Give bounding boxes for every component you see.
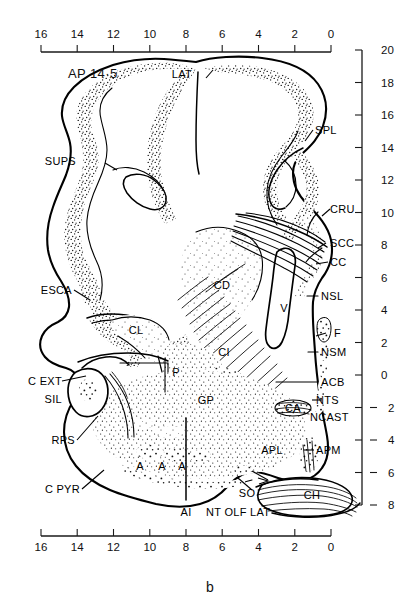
label-p: P	[172, 366, 180, 378]
top-tick-label-2: 12	[107, 28, 120, 40]
right-tick-label-10: 0	[381, 369, 387, 381]
label-sil: SIL	[45, 393, 62, 405]
right-axis-ticks	[355, 50, 362, 505]
label-ncast: NCAST	[310, 411, 349, 423]
label-cc: CC	[330, 256, 347, 268]
right-tick-label-7: 6	[381, 272, 387, 284]
right-tick-label-13: 6	[388, 467, 394, 479]
bottom-tick-label-4: 8	[183, 541, 189, 553]
right-tick-label-4: 12	[381, 174, 394, 186]
label-so: SO	[239, 487, 256, 499]
bottom-tick-label-3: 10	[143, 541, 156, 553]
label-f: F	[334, 327, 341, 339]
label-scc: SCC	[330, 237, 354, 249]
right-tick-label-5: 10	[381, 207, 394, 219]
bottom-tick-label-7: 2	[292, 541, 298, 553]
label-spl: SPL	[315, 124, 337, 136]
top-tick-label-3: 10	[143, 28, 156, 40]
label-cd: CD	[214, 279, 231, 291]
right-tick-label-8: 4	[381, 304, 388, 316]
supraoptic-patch	[234, 465, 252, 475]
top-scale-axis: 16 14 12 10 8 6 4 2 0	[35, 28, 335, 52]
bottom-tick-label-8: 0	[328, 541, 334, 553]
label-v: V	[280, 302, 288, 314]
sil-island	[68, 369, 108, 417]
top-tick-label-4: 8	[183, 28, 189, 40]
top-axis-ticks	[41, 45, 331, 52]
label-a-3: A	[178, 460, 186, 472]
atlas-svg: 16 14 12 10 8 6 4 2 0 16 14 12 10 8 6 4 …	[0, 0, 420, 613]
top-tick-label-6: 4	[255, 28, 262, 40]
atlas-figure: 16 14 12 10 8 6 4 2 0 16 14 12 10 8 6 4 …	[0, 0, 420, 613]
right-tick-label-14: 8	[388, 499, 394, 511]
bottom-tick-label-1: 14	[71, 541, 84, 553]
figure-panel-label: b	[206, 579, 214, 595]
right-tick-label-12: 4	[388, 434, 395, 446]
label-ca: CA	[285, 402, 301, 414]
label-cru: CRU	[330, 203, 355, 215]
label-a-1: A	[136, 460, 144, 472]
right-axis-negative-dashes	[370, 408, 377, 506]
label-apm: APM	[316, 444, 341, 456]
bottom-tick-label-5: 6	[219, 541, 225, 553]
right-tick-label-6: 8	[381, 239, 387, 251]
right-tick-label-0: 20	[381, 44, 394, 56]
label-acb: ACB	[321, 376, 345, 388]
label-gp: GP	[198, 394, 215, 406]
top-tick-label-7: 2	[292, 28, 298, 40]
label-nsm: NSM	[321, 346, 346, 358]
bottom-scale-axis: 16 14 12 10 8 6 4 2 0	[35, 529, 335, 553]
label-cl: CL	[129, 324, 144, 336]
label-lat: LAT	[172, 68, 192, 80]
top-tick-label-0: 16	[35, 28, 48, 40]
label-cext: C EXT	[28, 375, 62, 387]
label-esca: ESCA	[41, 284, 73, 296]
bottom-tick-label-2: 12	[107, 541, 120, 553]
label-nts: NTS	[316, 394, 339, 406]
right-tick-label-9: 2	[381, 337, 387, 349]
label-rps: RPS	[51, 434, 75, 446]
label-cpyr: C PYR	[45, 483, 80, 495]
brain-section-drawing	[40, 57, 360, 518]
right-scale-axis: 20 18 16 14 12 10 8 6 4 2 0 2 4 6 8	[355, 44, 395, 511]
label-ch: CH	[304, 489, 321, 501]
bottom-axis-ticks	[41, 529, 331, 536]
label-sups: SUPS	[45, 155, 76, 167]
bottom-tick-label-0: 16	[35, 541, 48, 553]
label-ci: CI	[218, 346, 230, 358]
top-tick-label-1: 14	[71, 28, 84, 40]
label-a-2: A	[158, 460, 166, 472]
right-tick-label-1: 18	[381, 77, 394, 89]
right-tick-label-2: 16	[381, 109, 394, 121]
bottom-tick-label-6: 4	[255, 541, 262, 553]
top-tick-label-5: 6	[219, 28, 225, 40]
label-nsl: NSL	[321, 290, 343, 302]
right-tick-label-3: 14	[381, 142, 394, 154]
right-tick-label-11: 2	[388, 402, 394, 414]
label-nt-olf-lat: NT OLF LAT	[206, 506, 270, 518]
label-apl: APL	[261, 444, 283, 456]
top-tick-label-8: 0	[328, 28, 334, 40]
ap-section-note: AP 14·5	[68, 66, 118, 81]
label-ai: AI	[181, 506, 192, 518]
